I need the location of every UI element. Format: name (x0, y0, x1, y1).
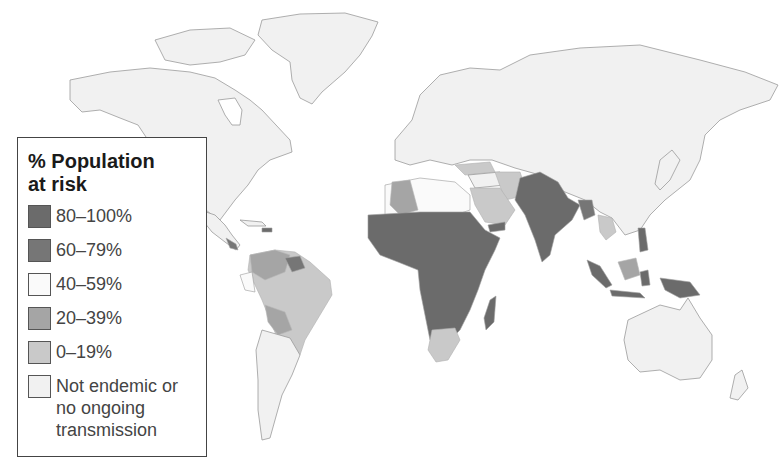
south-africa (428, 328, 460, 362)
ecuador-peru-coast (240, 272, 255, 292)
legend-item-60-79: 60–79% (28, 239, 198, 273)
legend-item-80-100: 80–100% (28, 205, 198, 239)
arctic-islands (155, 28, 255, 65)
borneo (618, 258, 640, 280)
philippines (638, 228, 648, 252)
madagascar (484, 296, 496, 330)
sulawesi (640, 270, 650, 286)
legend-item-20-39: 20–39% (28, 307, 198, 341)
legend-title: % Population at risk (28, 150, 198, 196)
swatch-80-100 (28, 205, 51, 228)
swatch-60-79 (28, 239, 51, 262)
greenland (258, 13, 378, 104)
yemen (488, 222, 505, 232)
legend-item-not-endemic: Not endemic or no ongoing transmission (28, 375, 198, 441)
sub-saharan-africa (368, 212, 500, 345)
java (610, 290, 645, 298)
swatch-20-39 (28, 307, 51, 330)
legend-item-0-19: 0–19% (28, 341, 198, 375)
swatch-40-59 (28, 273, 51, 296)
legend: % Population at risk 80–100% 60–79% 40–5… (17, 137, 207, 457)
southern-cone (256, 330, 300, 440)
swatch-not-endemic (28, 375, 51, 398)
myanmar-bangladesh (578, 200, 595, 220)
sumatra (587, 260, 612, 288)
legend-item-40-59: 40–59% (28, 273, 198, 307)
australia (624, 298, 712, 380)
swatch-0-19 (28, 341, 51, 364)
papua-new-guinea (660, 278, 700, 298)
